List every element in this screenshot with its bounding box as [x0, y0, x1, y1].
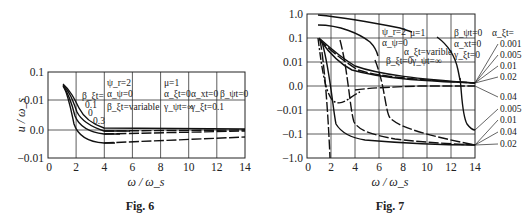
- fig6-xtick: 8: [158, 161, 164, 173]
- fig7-legend-value: 0.01: [500, 61, 517, 71]
- fig7-xtick: 4: [352, 161, 358, 173]
- fig7-ytick: 1.0: [289, 8, 304, 20]
- fig7-legend-value: 0.04: [500, 92, 517, 102]
- fig7-xtick: 12: [445, 161, 457, 173]
- fig7-xtick: 14: [469, 161, 481, 173]
- fig6-xtick: 14: [239, 161, 251, 173]
- fig7-param-beta-zt: β_ξt=0: [386, 56, 413, 67]
- fig6-param-beta-xi: β_ψt=0: [220, 89, 249, 99]
- fig7-xtick: 6: [376, 161, 382, 173]
- fig7-ytick: −0.1: [282, 128, 303, 140]
- fig7-curve-0.005: [318, 25, 378, 56]
- fig6-xtick: 4: [101, 161, 107, 173]
- fig7-ytick: −1.0: [282, 152, 303, 164]
- fig7-xtick: 0: [305, 161, 311, 173]
- fig6-xlabel: ω / ω_s: [128, 175, 165, 189]
- fig7-legend-value: 0.01: [500, 115, 517, 125]
- fig6-param-psi: ψ_r=2: [107, 78, 131, 88]
- fig7-legend-value: 0.02: [500, 72, 517, 82]
- fig6-ytick: 0.1: [30, 66, 45, 78]
- fig7-ytick: 0.0: [289, 80, 304, 92]
- fig6-param-gamma-inf: γ_ψt=∞: [163, 102, 194, 112]
- fig7-ytick: 0.01: [283, 56, 303, 68]
- fig6-ylabel: u / ω_s: [14, 97, 28, 132]
- fig6-ytick: 0.0: [30, 124, 45, 136]
- fig7-legend-value: 0.001: [500, 39, 522, 49]
- fig6-xtick: 12: [211, 161, 223, 173]
- fig7-param-mu: μ=1: [410, 28, 425, 38]
- fig7-curve-zero-line: [355, 86, 475, 90]
- fig7-xtick: 10: [421, 161, 433, 173]
- fig6-grid: [48, 72, 245, 158]
- fig7-chart: 1.0 0.1 0.01 0.0 −0.01 −0.1 −1.0 0 2 4 6…: [276, 8, 521, 213]
- fig6-xtick: 2: [73, 161, 79, 173]
- fig7-xtick: 8: [400, 161, 406, 173]
- fig6-xtick: 6: [130, 161, 136, 173]
- fig7-legend-value: 0.005: [500, 50, 522, 60]
- fig6-param-gamma-01: γ_ξt=0.1: [190, 102, 224, 113]
- fig7-legend-value: 0.02: [500, 139, 517, 149]
- fig7-caption: Fig. 7: [376, 199, 405, 213]
- fig6-param-alpha: α_ψ=0: [107, 89, 133, 99]
- fig7-param-gamma-0: γ_ξt=0: [453, 50, 480, 61]
- fig7-xtick: 2: [328, 161, 334, 173]
- fig6-ytick: −0.01: [17, 152, 44, 164]
- figure-canvas: 0.1 0.01 0.0 −0.01 0 2 4 6 8 10 12 14 ω …: [0, 0, 531, 223]
- fig6-param-beta-variable: β_ξt=variable: [107, 102, 159, 113]
- fig6-chart: 0.1 0.01 0.0 −0.01 0 2 4 6 8 10 12 14 ω …: [14, 66, 251, 213]
- fig6-param-alpha-xt: α_xt=0: [191, 89, 218, 99]
- fig7-legend-title: α_ξt=: [492, 28, 514, 39]
- fig6-xtick: 0: [46, 161, 52, 173]
- fig7-ytick: −0.01: [276, 104, 303, 116]
- fig6-caption: Fig. 6: [126, 199, 155, 213]
- fig7-xlabel: ω / ω_s: [372, 175, 409, 189]
- fig7-legend-value: 0.005: [500, 104, 522, 114]
- fig6-curve-lowest-dashed: [104, 137, 245, 143]
- fig6-param-alpha-zt: α_ξt=0: [164, 89, 191, 100]
- fig7-ytick: 0.1: [289, 32, 304, 44]
- fig6-param-mu: μ=1: [164, 78, 179, 88]
- fig7-legend-value: 0.04: [500, 127, 517, 137]
- fig6-plot-frame: [48, 72, 245, 158]
- fig7-param-alpha-xt: α_xt=0: [454, 39, 481, 49]
- fig7-curve-0.01-lower: [375, 60, 475, 145]
- fig7-param-gamma-inf: γ_ψt=∞: [411, 56, 442, 66]
- fig7-param-beta-xi: β_ψt=0: [454, 28, 483, 38]
- fig6-xtick: 10: [183, 161, 195, 173]
